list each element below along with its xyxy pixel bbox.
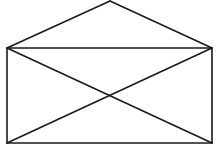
envelope-diagram	[0, 0, 217, 148]
envelope-drawing	[0, 0, 217, 148]
flap-right-line	[110, 1, 212, 48]
flap-left-line	[7, 1, 110, 48]
envelope-lines	[7, 1, 212, 143]
